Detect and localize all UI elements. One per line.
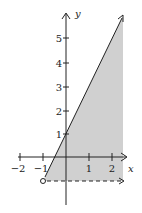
x-axis-label: x (128, 163, 134, 174)
y-tick-label: 5 (56, 33, 62, 44)
x-tick-label: 1 (86, 163, 92, 174)
y-axis-label: y (74, 8, 81, 19)
x-tick-label: 2 (109, 163, 115, 174)
y-tick-label: 4 (56, 58, 62, 69)
open-point (41, 179, 46, 184)
x-tick-label: −1 (34, 163, 49, 174)
region-graph: −2 −1 1 2 1 2 3 4 5 x y (0, 0, 142, 213)
y-tick-label: 3 (56, 82, 62, 93)
y-tick-label: 1 (56, 129, 62, 140)
y-tick-label: 2 (56, 106, 62, 117)
x-tick-label: −2 (11, 163, 26, 174)
